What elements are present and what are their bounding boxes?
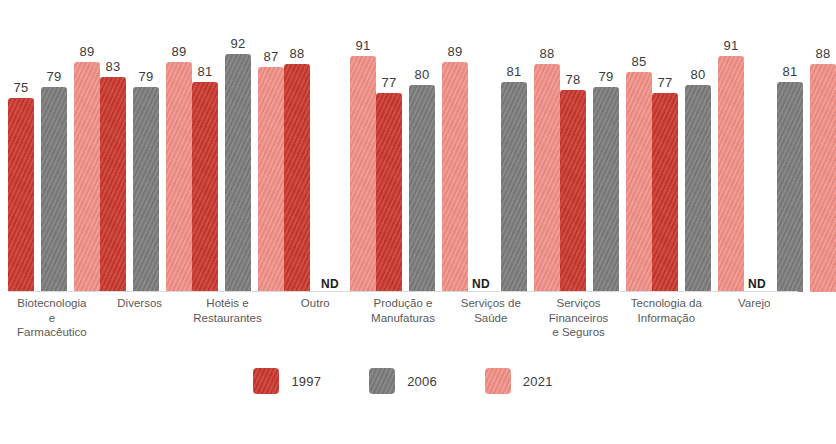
bar-slot: 77 xyxy=(376,14,402,292)
bar-group: 837989 xyxy=(100,14,192,292)
bar-1997[interactable] xyxy=(376,93,402,292)
bar-value-label: 81 xyxy=(783,65,798,78)
bar-1997[interactable] xyxy=(652,93,678,292)
bar-slot: 81 xyxy=(501,14,527,292)
bar-value-label: 80 xyxy=(415,68,430,81)
bar-2021[interactable] xyxy=(442,62,468,293)
bar-group: 787985 xyxy=(560,14,652,292)
bar-1997[interactable] xyxy=(8,98,34,292)
bar-2021[interactable] xyxy=(718,56,744,292)
bar-value-label: 88 xyxy=(816,47,831,60)
bar-group: 757989 xyxy=(8,14,100,292)
legend-item-2006[interactable]: 2006 xyxy=(369,368,437,394)
legend-item-1997[interactable]: 1997 xyxy=(253,368,321,394)
bar-2006[interactable] xyxy=(777,82,803,292)
bar-2021[interactable] xyxy=(74,62,100,293)
bar-slot: 81 xyxy=(777,14,803,292)
bar-groups: 75798983798981928788ND91778089ND81887879… xyxy=(8,14,798,292)
bar-slot: 75 xyxy=(8,14,34,292)
bar-2021[interactable] xyxy=(350,56,376,292)
bar-value-label: 81 xyxy=(507,65,522,78)
category-label: Diversos xyxy=(96,296,184,340)
bar-1997[interactable] xyxy=(284,64,310,292)
bar-group: 778089 xyxy=(376,14,468,292)
bar-slot: ND xyxy=(468,14,494,292)
bar-slot: 80 xyxy=(409,14,435,292)
bar-2006[interactable] xyxy=(593,87,619,292)
bar-slot: 89 xyxy=(74,14,100,292)
bar-value-label: 91 xyxy=(356,39,371,52)
bar-value-label: 79 xyxy=(47,70,62,83)
bar-slot: 77 xyxy=(652,14,678,292)
bar-value-label: 85 xyxy=(632,55,647,68)
bar-value-label: 89 xyxy=(80,45,95,58)
bar-group: 819287 xyxy=(192,14,284,292)
category-label: Outro xyxy=(271,296,359,340)
plot-area: 75798983798981928788ND91778089ND81887879… xyxy=(8,14,798,292)
bar-slot: 92 xyxy=(225,14,251,292)
bar-1997[interactable] xyxy=(560,90,586,292)
bar-1997[interactable] xyxy=(100,77,126,292)
chart-legend: 199720062021 xyxy=(0,368,806,394)
bar-value-label: 89 xyxy=(172,45,187,58)
category-label: Tecnologia da Informação xyxy=(622,296,710,340)
bar-group: ND8188 xyxy=(468,14,560,292)
bar-value-label: 92 xyxy=(231,37,246,50)
category-label: Produção e Manufaturas xyxy=(359,296,447,340)
bar-2006[interactable] xyxy=(685,85,711,292)
legend-label: 2006 xyxy=(407,374,437,389)
bar-slot: 88 xyxy=(534,14,560,292)
category-label: Biotecnologia e Farmacêutico xyxy=(8,296,96,340)
bar-slot: 88 xyxy=(810,14,836,292)
bar-value-label: 88 xyxy=(290,47,305,60)
bar-group: 88ND91 xyxy=(284,14,376,292)
bar-value-label: 77 xyxy=(658,76,673,89)
legend-label: 1997 xyxy=(291,374,321,389)
axis-baseline xyxy=(8,291,798,292)
bar-value-label: 77 xyxy=(382,76,397,89)
bar-2006[interactable] xyxy=(225,54,251,292)
bar-group: ND8188 xyxy=(744,14,836,292)
bar-value-label: 79 xyxy=(139,70,154,83)
legend-label: 2021 xyxy=(523,374,553,389)
bar-slot: 88 xyxy=(284,14,310,292)
bar-value-label: 79 xyxy=(599,70,614,83)
bar-2021[interactable] xyxy=(258,67,284,292)
no-data-label: ND xyxy=(321,278,339,292)
bar-1997[interactable] xyxy=(192,82,218,292)
bar-slot: 91 xyxy=(350,14,376,292)
category-label: Serviços Financeiros e Seguros xyxy=(535,296,623,340)
bar-2021[interactable] xyxy=(534,64,560,292)
bar-2006[interactable] xyxy=(501,82,527,292)
bar-2021[interactable] xyxy=(626,72,652,292)
legend-item-2021[interactable]: 2021 xyxy=(485,368,553,394)
bar-2006[interactable] xyxy=(41,87,67,292)
bar-value-label: 75 xyxy=(14,81,29,94)
category-label: Hotéis e Restaurantes xyxy=(184,296,272,340)
bar-2006[interactable] xyxy=(133,87,159,292)
bar-value-label: 78 xyxy=(566,73,581,86)
legend-swatch xyxy=(253,368,279,394)
bar-slot: 78 xyxy=(560,14,586,292)
bar-slot: 81 xyxy=(192,14,218,292)
bar-slot: 89 xyxy=(442,14,468,292)
bar-slot: 79 xyxy=(41,14,67,292)
bar-group: 778091 xyxy=(652,14,744,292)
bar-slot: 91 xyxy=(718,14,744,292)
bar-slot: 83 xyxy=(100,14,126,292)
bar-slot: 87 xyxy=(258,14,284,292)
bar-slot: 79 xyxy=(593,14,619,292)
bar-2021[interactable] xyxy=(166,62,192,293)
legend-swatch xyxy=(369,368,395,394)
category-labels: Biotecnologia e FarmacêuticoDiversosHoté… xyxy=(8,296,798,340)
bar-value-label: 81 xyxy=(198,65,213,78)
no-data-label: ND xyxy=(748,278,766,292)
no-data-label: ND xyxy=(472,278,490,292)
legend-swatch xyxy=(485,368,511,394)
bar-value-label: 87 xyxy=(264,50,279,63)
bar-2021[interactable] xyxy=(810,64,836,292)
bar-slot: 80 xyxy=(685,14,711,292)
bar-2006[interactable] xyxy=(409,85,435,292)
bar-value-label: 80 xyxy=(691,68,706,81)
